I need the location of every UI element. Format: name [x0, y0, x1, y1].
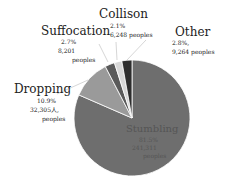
count-suffocation: 8,201	[58, 48, 75, 54]
label-collison: Collison	[99, 8, 148, 20]
label-other: Other	[175, 26, 210, 38]
leader-other	[127, 40, 146, 60]
count-other: 9,264	[172, 48, 189, 55]
percent-suffocation: 2.7%	[61, 39, 76, 45]
unit-collison: peoples	[129, 31, 152, 38]
count-stumbling: 241,311	[132, 145, 157, 151]
percent-collison: 2.1%	[110, 23, 125, 29]
leader-collison	[116, 42, 117, 60]
count-collison: 6,248	[110, 31, 127, 38]
leader-suffocation	[99, 44, 108, 62]
percent-dropping: 10.9%	[37, 98, 56, 104]
label-suffocation: Suffocation	[41, 25, 110, 37]
unit-other: peoples	[191, 48, 214, 55]
label-stumbling: Stumbling	[126, 124, 178, 134]
unit-suffocation: peoples	[72, 57, 95, 63]
unit-stumbling: peoples	[143, 153, 166, 159]
count-dropping: 32,305人,	[30, 107, 59, 113]
percent-other: 2.8%,	[172, 40, 189, 46]
unit-dropping: peoples	[42, 116, 65, 122]
percent-stumbling: 81.5%	[139, 137, 158, 143]
label-dropping: Dropping	[14, 83, 71, 95]
